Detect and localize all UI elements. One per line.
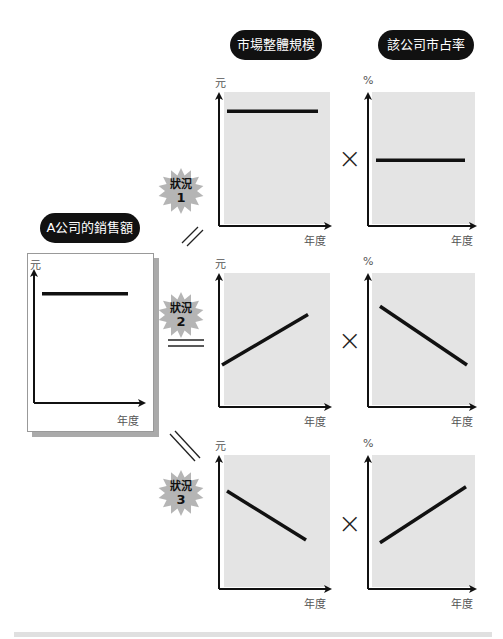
trend-line (380, 487, 466, 543)
parallel-relation-icon (182, 227, 203, 246)
line-chart (34, 271, 144, 403)
bottom-divider (14, 632, 492, 637)
line-chart (368, 275, 475, 407)
line-chart (219, 94, 330, 226)
equals-relation-icon (168, 340, 204, 346)
line-chart (219, 275, 330, 407)
line-chart (219, 457, 330, 589)
diagram-canvas (0, 0, 503, 639)
trend-line (222, 315, 308, 365)
backslash-relation-icon (170, 431, 200, 461)
line-chart (368, 94, 475, 226)
trend-line (227, 491, 306, 540)
line-chart (368, 457, 475, 589)
trend-line (380, 306, 467, 365)
